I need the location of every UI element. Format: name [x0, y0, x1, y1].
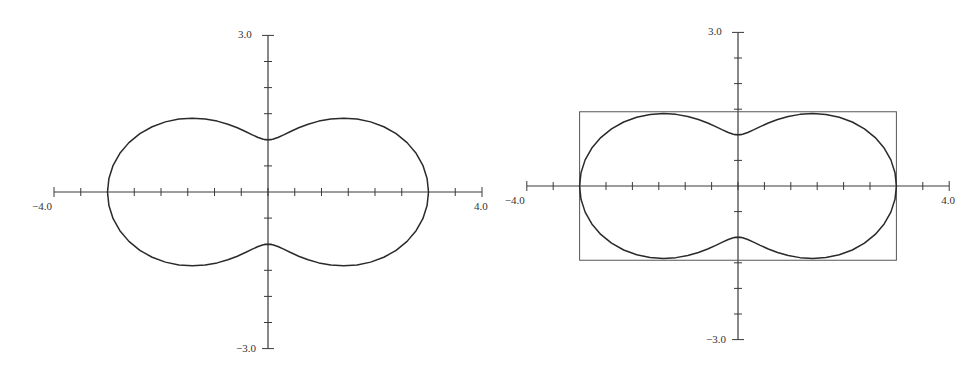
y-min-label: −3.0 [706, 334, 726, 345]
x-min-label: −4.0 [505, 195, 525, 206]
y-max-label: 3.0 [708, 26, 722, 37]
x-max-label: 4.0 [941, 195, 955, 206]
polar-curve-chart-boxed [0, 0, 979, 371]
polar-plot-right-with-bounding-box: 3.0 −3.0 −4.0 4.0 [0, 0, 979, 371]
